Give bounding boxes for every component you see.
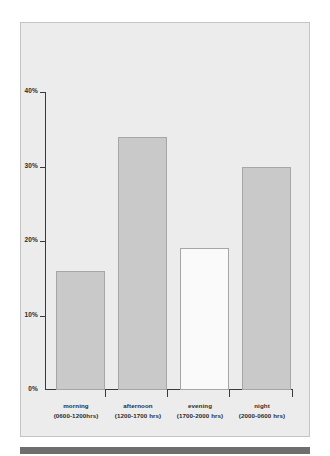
bottom-rule — [20, 447, 310, 454]
x-label-line2: (0600-1200hrs) — [45, 411, 107, 421]
x-label-line1: evening — [188, 402, 212, 409]
x-label-line2: (2000-0600 hrs) — [231, 411, 293, 421]
x-label-line1: morning — [63, 402, 88, 409]
y-tick-mark — [40, 316, 46, 317]
y-tick-label: 0% — [28, 385, 38, 392]
y-tick-label: 10% — [24, 311, 38, 318]
x-label-line2: (1200-1700 hrs) — [107, 411, 169, 421]
x-label-line1: afternoon — [123, 402, 152, 409]
plot-area: 40% 30% 20% 10% 0% — [45, 92, 293, 390]
x-label-afternoon: afternoon (1200-1700 hrs) — [107, 401, 169, 420]
x-label-line2: (1700-2000 hrs) — [169, 411, 231, 421]
y-tick-mark — [40, 241, 46, 242]
y-tick-label: 30% — [24, 162, 38, 169]
bar-morning[interactable] — [56, 271, 104, 390]
x-tick-mark — [229, 390, 230, 397]
x-tick-mark — [292, 390, 293, 397]
x-tick-mark — [105, 390, 106, 397]
x-label-evening: evening (1700-2000 hrs) — [169, 401, 231, 420]
y-tick-mark — [40, 167, 46, 168]
bar-evening[interactable] — [180, 248, 228, 390]
bar-night[interactable] — [242, 167, 290, 391]
y-tick-label: 40% — [24, 87, 38, 94]
chart-panel: 40% 30% 20% 10% 0% morning (0600- — [20, 22, 310, 437]
bar-afternoon[interactable] — [118, 137, 166, 390]
y-tick-mark — [40, 92, 46, 93]
x-label-night: night (2000-0600 hrs) — [231, 401, 293, 420]
x-label-line1: night — [254, 402, 270, 409]
x-label-morning: morning (0600-1200hrs) — [45, 401, 107, 420]
x-axis-labels: morning (0600-1200hrs) afternoon (1200-1… — [45, 401, 293, 420]
x-tick-mark — [167, 390, 168, 397]
y-tick-label: 20% — [24, 236, 38, 243]
